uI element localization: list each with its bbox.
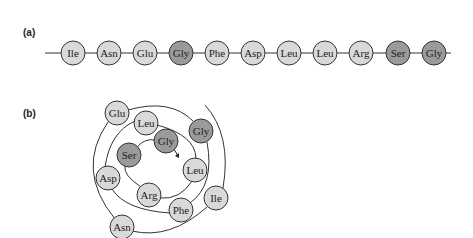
residue-b-leu-top: Leu — [134, 111, 158, 135]
residue-b-phe: Phe — [169, 198, 193, 222]
residue-label: Ile — [67, 47, 79, 59]
residue-label: Phe — [173, 204, 190, 216]
residue-label: Gly — [193, 125, 210, 137]
residue-a-7: Leu — [277, 41, 301, 65]
residue-label: Leu — [280, 47, 298, 59]
residue-label: Glu — [137, 47, 154, 59]
residue-a-1: Ile — [61, 41, 85, 65]
residue-label: Glu — [109, 107, 126, 119]
residue-b-asn: Asn — [110, 215, 134, 238]
residue-label: Phe — [209, 47, 226, 59]
residue-a-5: Phe — [205, 41, 229, 65]
residue-label: Arg — [141, 189, 158, 201]
residue-label: Leu — [137, 117, 155, 129]
residue-label: Asn — [100, 47, 118, 59]
residue-label: Gly — [173, 47, 190, 59]
residue-b-gly-inner: Gly — [154, 129, 178, 153]
residue-b-gly-outer: Gly — [189, 119, 213, 143]
residue-label: Asp — [244, 47, 262, 59]
residue-label: Asn — [113, 221, 131, 233]
diagram-canvas: (a) Ile Asn Glu Gly Phe Asp Leu Leu Arg … — [0, 0, 473, 238]
residue-b-ser: Ser — [117, 143, 141, 167]
residue-label: Gly — [426, 47, 443, 59]
residue-label: Leu — [186, 164, 204, 176]
panel-a-label: (a) — [23, 27, 35, 38]
residue-a-6: Asp — [241, 41, 265, 65]
residue-label: Ile — [210, 192, 222, 204]
residue-label: Ser — [122, 149, 137, 161]
residue-a-9: Arg — [349, 41, 373, 65]
residue-label: Leu — [316, 47, 334, 59]
residue-a-10: Ser — [386, 41, 410, 65]
residue-a-3: Glu — [133, 41, 157, 65]
residue-b-glu: Glu — [105, 101, 129, 125]
residue-b-asp: Asp — [96, 166, 120, 190]
residue-a-4: Gly — [169, 41, 193, 65]
residue-label: Gly — [158, 135, 175, 147]
residue-label: Ser — [391, 47, 406, 59]
residue-label: Arg — [353, 47, 370, 59]
residue-a-8: Leu — [313, 41, 337, 65]
residue-label: Asp — [99, 172, 117, 184]
residue-a-11: Gly — [422, 41, 446, 65]
residue-b-arg: Arg — [137, 183, 161, 207]
residue-a-2: Asn — [97, 41, 121, 65]
panel-b-label: (b) — [23, 108, 36, 119]
residue-b-leu-right: Leu — [183, 158, 207, 182]
residue-b-ile: Ile — [204, 186, 228, 210]
